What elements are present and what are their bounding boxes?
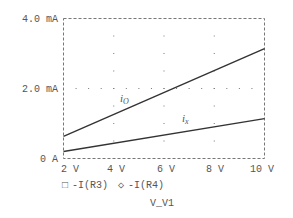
x-tick-label: 6 V <box>157 164 175 175</box>
legend-label: -I(R4) <box>128 180 164 191</box>
square-marker-icon: □ <box>62 181 68 191</box>
legend-item-i-r4: ◇ -I(R4) <box>118 180 164 191</box>
y-tick-label: 0 A <box>40 154 58 165</box>
y-tick-label: 4.0 mA <box>22 14 58 25</box>
x-tick-label: 2 V <box>61 164 79 175</box>
diamond-marker-icon: ◇ <box>118 181 124 191</box>
annotation-ix: ix <box>182 112 189 126</box>
legend: □ -I(R3) ◇ -I(R4) <box>62 180 174 191</box>
legend-item-i-r3: □ -I(R3) <box>62 180 108 191</box>
x-tick-label: 10 V <box>250 164 274 175</box>
x-tick-label: 4 V <box>107 164 125 175</box>
x-axis-label: V_V1 <box>150 198 174 209</box>
x-tick-label: 8 V <box>206 164 224 175</box>
legend-label: -I(R3) <box>72 180 108 191</box>
y-tick-label: 2.0 mA <box>22 84 58 95</box>
annotation-io: iO <box>120 92 129 106</box>
